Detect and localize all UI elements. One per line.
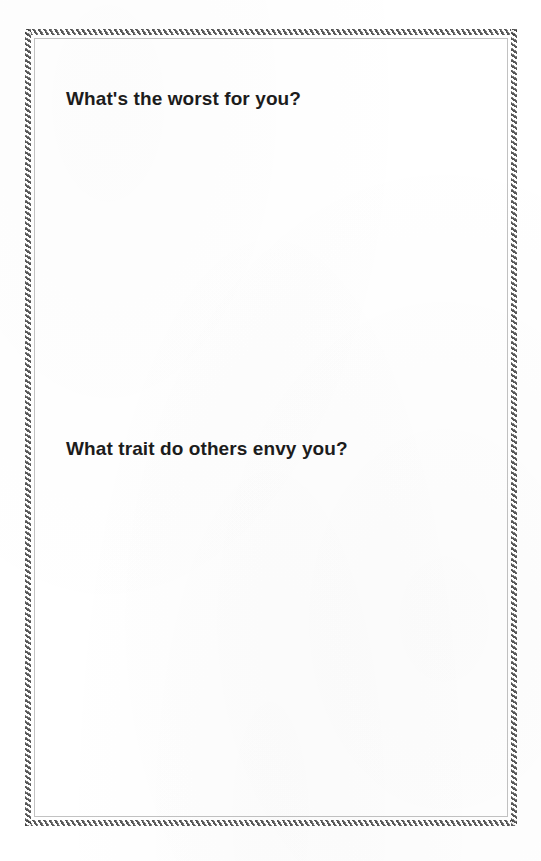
page-content: What's the worst for you? What trait do … <box>0 0 541 861</box>
prompt-block-2: What trait do others envy you? <box>66 438 496 760</box>
answer-space-1[interactable] <box>66 110 476 410</box>
prompt-heading-1: What's the worst for you? <box>66 88 496 110</box>
answer-space-2[interactable] <box>66 460 476 760</box>
prompt-heading-2: What trait do others envy you? <box>66 438 496 460</box>
journal-page: What's the worst for you? What trait do … <box>0 0 541 861</box>
prompt-block-1: What's the worst for you? <box>66 88 496 410</box>
